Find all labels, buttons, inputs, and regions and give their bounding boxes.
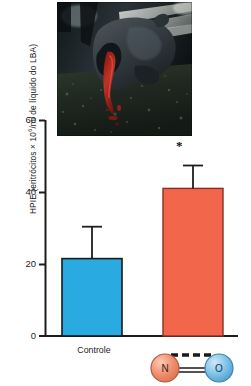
x-axis-label-control: Controle [52,345,136,355]
bar-control [62,259,122,336]
y-axis-title-tail: de líquido do LBA) [28,44,38,117]
y-axis-title-unit-italic: l [28,117,38,119]
error-bar-control [82,226,102,258]
y-axis-ticks [39,121,45,337]
y-axis-title: HPIE (eritrócitos × 106/ml de líquido do… [21,14,39,244]
y-tick-label-20: 20 [10,258,36,269]
y-axis-title-exponent: 6 [27,129,33,132]
figure-container: 60 40 20 0 HPIE (eritrócitos × 106/ml de… [0,0,251,386]
x-axis-label-no-molecule: N O [147,347,235,383]
error-bar-no-treatment [183,165,203,188]
no-molecule-diagram: N O [147,347,235,383]
atom-n-label: N [161,363,168,374]
y-tick-label-0: 0 [10,330,36,341]
atom-o-label: O [215,363,223,374]
y-axis-title-main: HPIE (eritrócitos × 10 [28,132,38,214]
bar-no-treatment [163,188,223,336]
y-axis-title-unit: /m [28,119,38,129]
significance-asterisk: * [176,139,183,152]
